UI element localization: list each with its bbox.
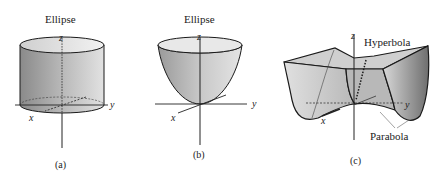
y-axis-label: y xyxy=(109,99,115,110)
x-axis-label: x xyxy=(28,112,34,123)
quadric-surfaces-figure: Ellipse z y x (a) Ellipse z y x (b) xyxy=(0,0,436,179)
panel-a: Ellipse z y x (a) xyxy=(15,13,115,171)
panel-c: z y x Hyperbola Parabola (c) xyxy=(284,30,429,167)
panel-b-top-label: Ellipse xyxy=(184,13,215,25)
parabola-label: Parabola xyxy=(370,130,409,142)
panel-c-caption: (c) xyxy=(350,155,361,167)
panel-b: Ellipse z y x (b) xyxy=(155,13,257,161)
saddle-left-wall xyxy=(284,62,355,119)
panel-a-caption: (a) xyxy=(55,159,66,171)
y-axis-label: y xyxy=(404,99,410,110)
panel-b-caption: (b) xyxy=(193,149,205,161)
y-axis-label: y xyxy=(251,98,257,109)
panel-a-top-label: Ellipse xyxy=(45,13,76,25)
z-axis-label: z xyxy=(350,30,355,41)
z-axis-label: z xyxy=(196,31,201,42)
x-axis-label: x xyxy=(170,112,176,123)
z-axis-label: z xyxy=(58,32,63,43)
parabola-pointer xyxy=(380,112,395,128)
hyperbola-label: Hyperbola xyxy=(364,36,411,48)
x-axis-label: x xyxy=(320,115,326,126)
